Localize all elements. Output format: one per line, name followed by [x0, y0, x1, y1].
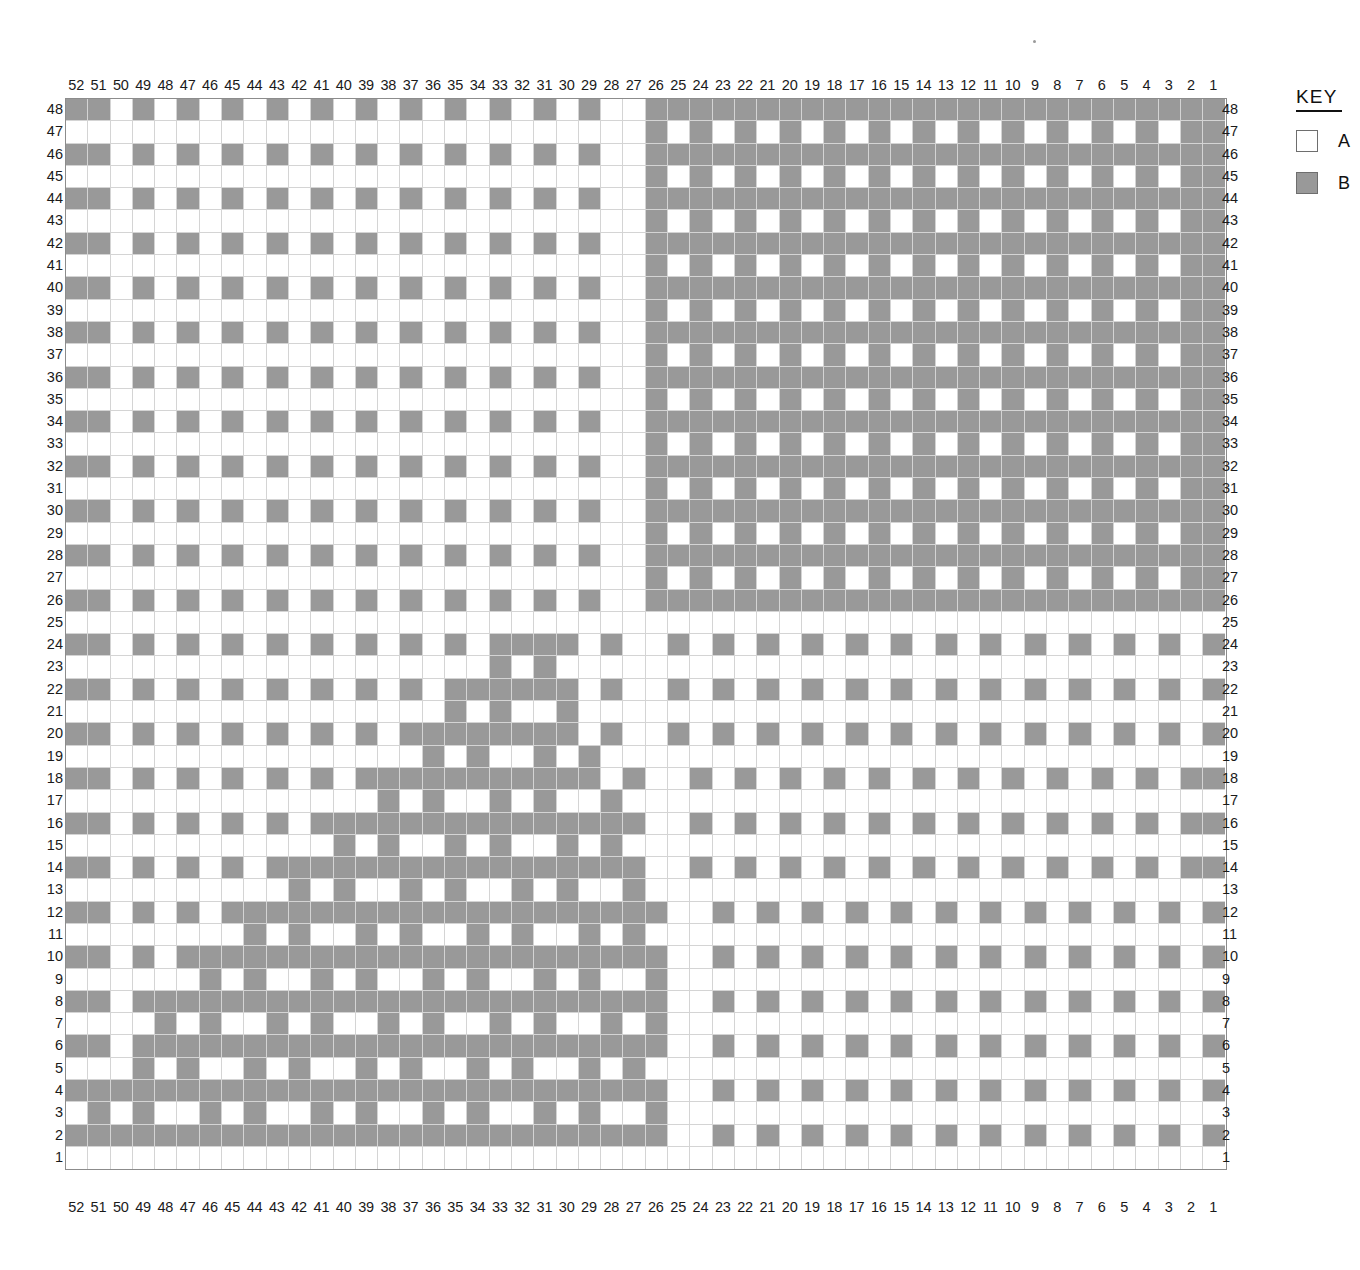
pattern-cell[interactable]	[958, 991, 980, 1013]
pattern-cell[interactable]	[1159, 857, 1181, 879]
pattern-cell[interactable]	[1047, 456, 1069, 478]
pattern-cell[interactable]	[846, 969, 868, 991]
pattern-cell[interactable]	[177, 1013, 199, 1035]
pattern-cell[interactable]	[445, 255, 467, 277]
pattern-cell[interactable]	[690, 456, 712, 478]
pattern-cell[interactable]	[958, 478, 980, 500]
pattern-cell[interactable]	[66, 590, 88, 612]
pattern-cell[interactable]	[1159, 1125, 1181, 1147]
pattern-cell[interactable]	[936, 433, 958, 455]
pattern-cell[interactable]	[400, 1102, 422, 1124]
pattern-cell[interactable]	[334, 701, 356, 723]
pattern-cell[interactable]	[713, 500, 735, 522]
pattern-cell[interactable]	[311, 634, 333, 656]
pattern-cell[interactable]	[1159, 946, 1181, 968]
pattern-cell[interactable]	[1092, 768, 1114, 790]
pattern-cell[interactable]	[579, 300, 601, 322]
pattern-cell[interactable]	[244, 1102, 266, 1124]
pattern-cell[interactable]	[913, 924, 935, 946]
pattern-cell[interactable]	[88, 456, 110, 478]
pattern-cell[interactable]	[267, 1035, 289, 1057]
pattern-cell[interactable]	[846, 590, 868, 612]
pattern-cell[interactable]	[936, 500, 958, 522]
pattern-cell[interactable]	[534, 746, 556, 768]
pattern-cell[interactable]	[66, 946, 88, 968]
pattern-cell[interactable]	[534, 612, 556, 634]
pattern-cell[interactable]	[244, 768, 266, 790]
pattern-cell[interactable]	[958, 144, 980, 166]
pattern-cell[interactable]	[1069, 210, 1091, 232]
pattern-cell[interactable]	[423, 746, 445, 768]
pattern-cell[interactable]	[512, 166, 534, 188]
pattern-cell[interactable]	[958, 924, 980, 946]
pattern-cell[interactable]	[490, 969, 512, 991]
pattern-cell[interactable]	[356, 389, 378, 411]
pattern-cell[interactable]	[1181, 99, 1203, 121]
pattern-cell[interactable]	[490, 701, 512, 723]
pattern-cell[interactable]	[1047, 545, 1069, 567]
pattern-cell[interactable]	[423, 121, 445, 143]
pattern-cell[interactable]	[802, 1147, 824, 1169]
pattern-cell[interactable]	[891, 389, 913, 411]
pattern-cell[interactable]	[601, 590, 623, 612]
pattern-cell[interactable]	[111, 969, 133, 991]
pattern-cell[interactable]	[757, 701, 779, 723]
pattern-cell[interactable]	[958, 835, 980, 857]
pattern-cell[interactable]	[557, 389, 579, 411]
pattern-cell[interactable]	[267, 523, 289, 545]
pattern-cell[interactable]	[88, 166, 110, 188]
pattern-cell[interactable]	[1069, 835, 1091, 857]
pattern-cell[interactable]	[155, 567, 177, 589]
pattern-cell[interactable]	[668, 1125, 690, 1147]
pattern-cell[interactable]	[155, 166, 177, 188]
pattern-cell[interactable]	[668, 523, 690, 545]
pattern-cell[interactable]	[1136, 523, 1158, 545]
pattern-cell[interactable]	[490, 902, 512, 924]
pattern-cell[interactable]	[1092, 367, 1114, 389]
pattern-cell[interactable]	[1092, 433, 1114, 455]
pattern-cell[interactable]	[1002, 99, 1024, 121]
pattern-cell[interactable]	[66, 1035, 88, 1057]
pattern-cell[interactable]	[1136, 1058, 1158, 1080]
pattern-cell[interactable]	[200, 879, 222, 901]
pattern-cell[interactable]	[623, 545, 645, 567]
pattern-cell[interactable]	[311, 255, 333, 277]
pattern-cell[interactable]	[1136, 500, 1158, 522]
pattern-cell[interactable]	[780, 991, 802, 1013]
pattern-cell[interactable]	[289, 723, 311, 745]
pattern-cell[interactable]	[534, 1035, 556, 1057]
pattern-cell[interactable]	[623, 367, 645, 389]
pattern-cell[interactable]	[155, 1035, 177, 1057]
pattern-cell[interactable]	[980, 166, 1002, 188]
pattern-cell[interactable]	[601, 946, 623, 968]
pattern-cell[interactable]	[891, 946, 913, 968]
pattern-cell[interactable]	[668, 723, 690, 745]
pattern-cell[interactable]	[1136, 99, 1158, 121]
pattern-cell[interactable]	[400, 1058, 422, 1080]
pattern-cell[interactable]	[1069, 946, 1091, 968]
pattern-cell[interactable]	[713, 612, 735, 634]
pattern-cell[interactable]	[1136, 166, 1158, 188]
pattern-cell[interactable]	[1002, 277, 1024, 299]
pattern-cell[interactable]	[1159, 879, 1181, 901]
pattern-cell[interactable]	[869, 835, 891, 857]
pattern-cell[interactable]	[378, 433, 400, 455]
pattern-cell[interactable]	[735, 813, 757, 835]
pattern-cell[interactable]	[222, 567, 244, 589]
pattern-cell[interactable]	[378, 210, 400, 232]
pattern-cell[interactable]	[222, 500, 244, 522]
pattern-cell[interactable]	[623, 523, 645, 545]
pattern-cell[interactable]	[913, 1102, 935, 1124]
pattern-cell[interactable]	[1181, 1035, 1203, 1057]
pattern-cell[interactable]	[1092, 590, 1114, 612]
pattern-cell[interactable]	[1069, 144, 1091, 166]
pattern-cell[interactable]	[846, 121, 868, 143]
pattern-cell[interactable]	[1136, 902, 1158, 924]
pattern-cell[interactable]	[289, 523, 311, 545]
pattern-cell[interactable]	[400, 188, 422, 210]
pattern-cell[interactable]	[334, 902, 356, 924]
pattern-cell[interactable]	[1136, 188, 1158, 210]
pattern-cell[interactable]	[1025, 389, 1047, 411]
pattern-cell[interactable]	[690, 188, 712, 210]
pattern-cell[interactable]	[467, 255, 489, 277]
